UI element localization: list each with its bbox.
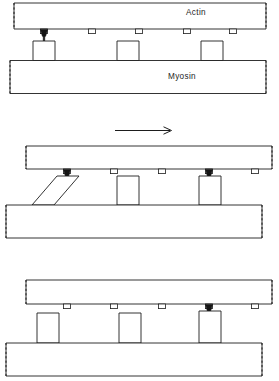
binding-site xyxy=(159,169,166,174)
crossbridge-head xyxy=(117,41,139,61)
actin-filament: Actin xyxy=(14,3,266,29)
actin-filament xyxy=(26,280,272,304)
binding-site xyxy=(252,304,259,309)
actin-body xyxy=(26,280,272,304)
myosin-filament xyxy=(6,205,262,238)
crossbridge-head xyxy=(199,176,221,205)
diagram-canvas: Actin xyxy=(0,0,279,381)
actin-label: Actin xyxy=(186,8,206,17)
motion-arrow xyxy=(115,127,172,134)
myosin-body xyxy=(6,343,262,376)
crossbridge-head xyxy=(117,176,139,205)
sliding-filament-diagram: Actin xyxy=(0,0,279,381)
binding-site xyxy=(89,29,96,34)
binding-site-row xyxy=(64,169,259,174)
myosin-body xyxy=(6,205,262,238)
actin-body xyxy=(14,3,266,29)
binding-site xyxy=(111,169,118,174)
crossbridge-head xyxy=(33,41,55,61)
binding-site xyxy=(64,304,71,309)
crossbridge-head xyxy=(201,41,223,61)
binding-site xyxy=(111,304,118,309)
myosin-filament xyxy=(6,343,262,376)
binding-site xyxy=(230,29,237,34)
crossbridge-head-tilted xyxy=(32,176,79,205)
crossbridge-head xyxy=(37,313,59,343)
crossbridge-head xyxy=(199,311,221,343)
panel-top: Actin xyxy=(10,3,266,94)
binding-site-row xyxy=(41,29,237,34)
actin-body xyxy=(26,146,272,169)
binding-site xyxy=(159,304,166,309)
actin-filament xyxy=(26,146,272,169)
myosin-body xyxy=(10,61,266,94)
panel-middle xyxy=(6,127,272,238)
binding-site xyxy=(136,29,143,34)
binding-site xyxy=(184,29,191,34)
crossbridge-group xyxy=(37,311,221,343)
binding-site xyxy=(252,169,259,174)
crossbridge-attachment xyxy=(64,169,71,176)
myosin-label: Myosin xyxy=(168,72,196,81)
crossbridge-head xyxy=(119,313,141,343)
binding-site-row xyxy=(64,304,259,309)
panel-bottom xyxy=(6,280,272,376)
crossbridge-attachment-stem xyxy=(43,35,44,42)
crossbridge-group xyxy=(33,41,223,61)
myosin-filament: Myosin xyxy=(10,61,266,94)
